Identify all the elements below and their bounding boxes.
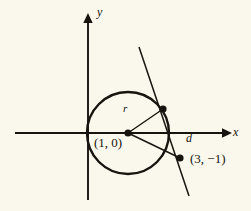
x-axis-label: x: [233, 126, 238, 138]
x-axis-arrowhead: [222, 128, 232, 137]
y-axis-arrowhead: [83, 13, 92, 23]
distance-label: d: [186, 132, 192, 144]
radius-segment: [128, 109, 163, 133]
center-point-marker: [124, 129, 131, 136]
tangency-point-marker: [159, 105, 166, 112]
radius-label: r: [123, 103, 127, 114]
center-point-label: (1, 0): [94, 136, 122, 149]
y-axis-label: y: [97, 6, 102, 18]
geometry-figure: y x r d (1, 0) (3, −1): [0, 0, 251, 211]
external-point-label: (3, −1): [190, 152, 226, 165]
y-axis: [83, 13, 92, 200]
x-axis: [15, 128, 232, 137]
tangent-line: [139, 47, 189, 196]
external-point-marker: [176, 154, 183, 161]
